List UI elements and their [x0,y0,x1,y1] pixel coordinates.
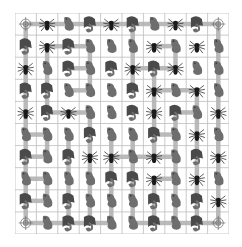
cell-lizard[interactable] [101,190,122,212]
cell-dragon[interactable] [36,101,57,123]
cell-dragon[interactable] [36,79,57,101]
cell-lizard[interactable] [101,212,122,234]
cell-lizard[interactable] [36,190,57,212]
cell-lizard[interactable] [79,168,100,190]
cell-dragon[interactable] [122,168,143,190]
cell-lizard[interactable] [122,124,143,146]
cell-lizard[interactable] [58,168,79,190]
cell-dragon[interactable] [15,35,36,57]
cell-spider[interactable] [186,79,207,101]
cell-target[interactable] [208,13,229,35]
cell-spider[interactable] [165,13,186,35]
cell-spider[interactable] [143,146,164,168]
cell-dragon[interactable] [15,146,36,168]
cell-target[interactable] [208,212,229,234]
cell-lizard[interactable] [165,168,186,190]
cell-spider[interactable] [36,35,57,57]
cell-dragon[interactable] [186,146,207,168]
cell-spider[interactable] [208,190,229,212]
cell-lizard[interactable] [122,212,143,234]
cell-lizard[interactable] [143,13,164,35]
cell-dragon[interactable] [122,13,143,35]
cell-lizard[interactable] [122,35,143,57]
cell-lizard[interactable] [208,35,229,57]
cell-lizard[interactable] [186,57,207,79]
cell-spider[interactable] [36,13,57,35]
cell-dragon[interactable] [165,101,186,123]
cell-lizard[interactable] [15,168,36,190]
cell-lizard[interactable] [165,212,186,234]
cell-lizard[interactable] [36,146,57,168]
cell-dragon[interactable] [101,168,122,190]
cell-lizard[interactable] [165,124,186,146]
cell-dragon[interactable] [79,124,100,146]
cell-target[interactable] [15,212,36,234]
cell-lizard[interactable] [101,124,122,146]
cell-lizard[interactable] [165,35,186,57]
cell-spider[interactable] [15,57,36,79]
cell-lizard[interactable] [58,79,79,101]
cell-lizard[interactable] [208,168,229,190]
cell-lizard[interactable] [165,146,186,168]
cell-dragon[interactable] [122,79,143,101]
cell-lizard[interactable] [79,57,100,79]
cell-target[interactable] [15,13,36,35]
cell-lizard[interactable] [79,35,100,57]
cell-dragon[interactable] [58,146,79,168]
board-canvas[interactable] [15,13,229,234]
cell-spider[interactable] [186,124,207,146]
cell-spider[interactable] [208,146,229,168]
cell-spider[interactable] [186,35,207,57]
cell-dragon[interactable] [58,212,79,234]
cell-dragon[interactable] [186,190,207,212]
cell-spider[interactable] [58,101,79,123]
cell-lizard[interactable] [208,124,229,146]
cell-spider[interactable] [165,57,186,79]
cell-lizard[interactable] [101,79,122,101]
cell-dragon[interactable] [143,124,164,146]
cell-lizard[interactable] [186,101,207,123]
cell-spider[interactable] [101,13,122,35]
cell-spider[interactable] [143,101,164,123]
cell-spider[interactable] [79,146,100,168]
cell-lizard[interactable] [58,13,79,35]
cell-lizard[interactable] [79,101,100,123]
cell-spider[interactable] [208,101,229,123]
cell-dragon[interactable] [186,13,207,35]
cell-spider[interactable] [122,57,143,79]
cell-dragon[interactable] [58,35,79,57]
cell-dragon[interactable] [186,212,207,234]
cell-dragon[interactable] [143,212,164,234]
game-board[interactable] [15,13,229,234]
cell-lizard[interactable] [15,124,36,146]
cell-lizard[interactable] [101,101,122,123]
cell-dragon[interactable] [79,212,100,234]
cell-spider[interactable] [143,79,164,101]
cell-lizard[interactable] [208,79,229,101]
cell-spider[interactable] [143,35,164,57]
cell-lizard[interactable] [165,79,186,101]
cell-lizard[interactable] [58,124,79,146]
cell-lizard[interactable] [36,168,57,190]
cell-lizard[interactable] [208,57,229,79]
cell-dragon[interactable] [122,101,143,123]
cell-spider[interactable] [143,168,164,190]
cell-dragon[interactable] [58,57,79,79]
cell-spider[interactable] [15,101,36,123]
cell-spider[interactable] [101,146,122,168]
cell-dragon[interactable] [58,190,79,212]
cell-lizard[interactable] [122,190,143,212]
cell-dragon[interactable] [143,190,164,212]
cell-dragon[interactable] [15,79,36,101]
cell-dragon[interactable] [15,190,36,212]
cell-spider[interactable] [186,168,207,190]
cell-lizard[interactable] [122,146,143,168]
cell-lizard[interactable] [79,190,100,212]
cell-lizard[interactable] [101,35,122,57]
cell-dragon[interactable] [101,57,122,79]
cell-lizard[interactable] [165,190,186,212]
cell-lizard[interactable] [36,212,57,234]
cell-lizard[interactable] [79,79,100,101]
cell-dragon[interactable] [79,13,100,35]
cell-dragon[interactable] [143,57,164,79]
